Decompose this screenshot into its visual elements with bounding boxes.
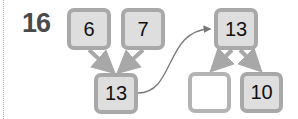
- box-blank-answer[interactable]: [188, 72, 231, 113]
- box-top-left: 6: [67, 8, 111, 50]
- box-sum: 13: [94, 73, 138, 114]
- box-top-right: 7: [121, 8, 165, 50]
- box-part: 10: [240, 72, 283, 113]
- arrow-6-to-13: [89, 50, 110, 69]
- arrow-13-to-10: [240, 50, 257, 67]
- box-whole: 13: [214, 8, 258, 50]
- arrow-13-to-blank: [215, 50, 232, 67]
- arrow-7-to-13: [122, 50, 143, 69]
